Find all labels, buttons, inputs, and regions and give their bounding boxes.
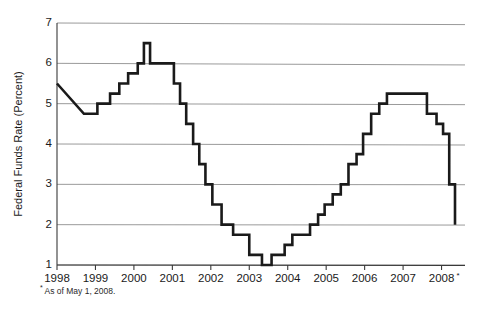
footnote-group: * As of May 1, 2008.: [40, 284, 115, 296]
y-tick-label-7: 7: [46, 16, 52, 28]
federal-funds-rate-line-chart: 1234567 19981999200020012002200320042005…: [0, 0, 498, 310]
x-tick-label-2007: 2007: [390, 272, 416, 284]
y-axis-title: Federal Funds Rate (Percent): [12, 71, 24, 217]
x-tick-label-2008: 2008: [429, 272, 455, 284]
footnote-label: As of May 1, 2008.: [45, 286, 116, 296]
y-tick-label-6: 6: [46, 56, 52, 68]
x-tick-label-superscript: *: [457, 271, 460, 280]
y-axis-title-group: Federal Funds Rate (Percent): [12, 71, 24, 217]
x-tick-label-2001: 2001: [160, 272, 186, 284]
gridline-y-4: [57, 144, 465, 145]
x-tick-label-1998: 1998: [44, 272, 70, 284]
x-tick-label-2002: 2002: [198, 272, 224, 284]
x-tick-label-2003: 2003: [236, 272, 262, 284]
y-tick-label-4: 4: [46, 137, 53, 149]
x-tick-label-2000: 2000: [121, 272, 147, 284]
gridlines-group: [57, 23, 465, 265]
x-tick-label-2006: 2006: [352, 272, 378, 284]
y-tick-label-2: 2: [46, 218, 52, 230]
x-tick-label-1999: 1999: [83, 272, 109, 284]
y-tick-label-3: 3: [46, 177, 52, 189]
data-series-group: [57, 43, 455, 265]
federal-funds-rate-series-line: [57, 43, 455, 265]
gridline-y-6: [57, 63, 465, 65]
gridline-y-5: [57, 104, 465, 105]
x-tick-labels-group: 1998199920002001200220032004200520062007…: [44, 271, 459, 284]
y-tick-label-5: 5: [46, 97, 52, 109]
x-tick-label-2005: 2005: [313, 272, 339, 284]
y-tick-labels-group: 1234567: [46, 16, 53, 270]
x-tick-label-2004: 2004: [275, 272, 301, 284]
gridline-y-7: [57, 23, 465, 25]
y-tick-label-1: 1: [46, 258, 52, 270]
chart-container: 1234567 19981999200020012002200320042005…: [0, 0, 498, 310]
footnote-marker: *: [40, 284, 43, 291]
